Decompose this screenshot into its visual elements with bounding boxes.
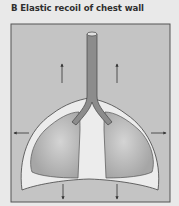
chest-diagram xyxy=(0,0,179,206)
trachea-opening xyxy=(87,32,97,36)
